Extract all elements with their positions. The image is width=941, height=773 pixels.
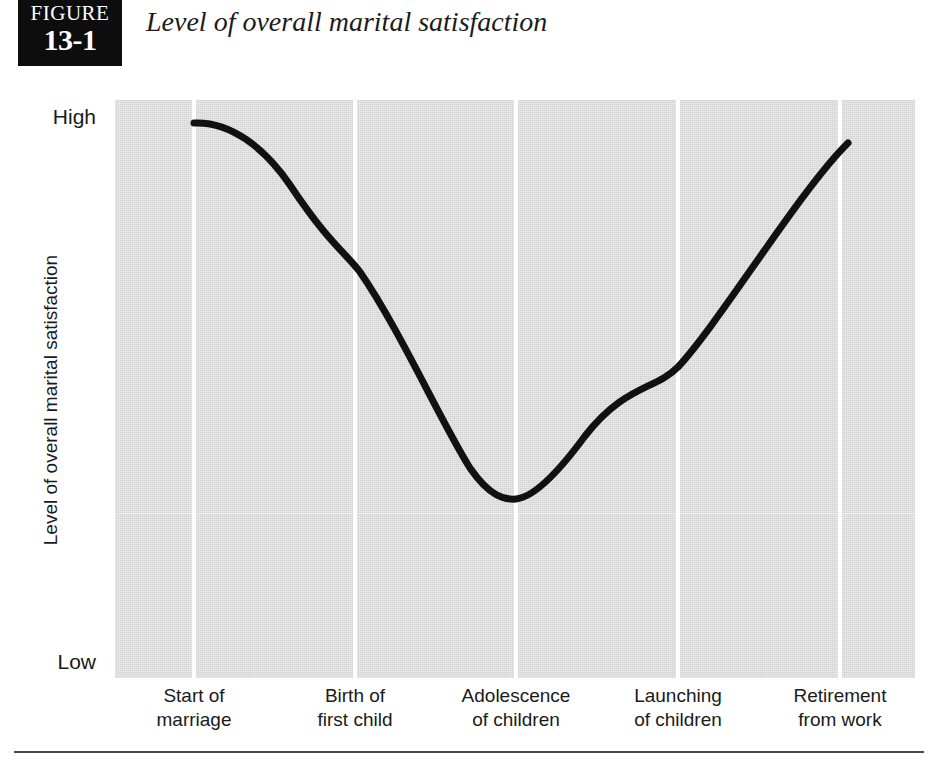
x-tick-line1: Launching [634, 685, 722, 706]
x-tick-line1: Retirement [794, 685, 887, 706]
satisfaction-curve-path [194, 123, 848, 499]
x-tick-line2: from work [755, 708, 925, 732]
x-tick-line2: marriage [109, 708, 279, 732]
x-tick-label-birth-of-first-child: Birth of first child [270, 684, 440, 732]
x-tick-line1: Adolescence [462, 685, 571, 706]
x-tick-line2: of children [431, 708, 601, 732]
x-tick-line2: of children [593, 708, 763, 732]
y-axis-title: Level of overall marital satisfaction [40, 140, 62, 660]
x-tick-line2: first child [270, 708, 440, 732]
x-tick-label-retirement-from-work: Retirement from work [755, 684, 925, 732]
x-tick-line1: Start of [163, 685, 224, 706]
chart-container: High Low Level of overall marital satisf… [0, 0, 941, 773]
x-tick-label-launching-of-children: Launching of children [593, 684, 763, 732]
y-axis-low-label: Low [57, 650, 96, 674]
x-tick-line1: Birth of [325, 685, 385, 706]
y-axis-high-label: High [53, 105, 96, 129]
x-tick-label-start-of-marriage: Start of marriage [109, 684, 279, 732]
x-tick-label-adolescence-of-children: Adolescence of children [431, 684, 601, 732]
bottom-divider [14, 751, 924, 753]
satisfaction-curve-svg [0, 0, 941, 773]
